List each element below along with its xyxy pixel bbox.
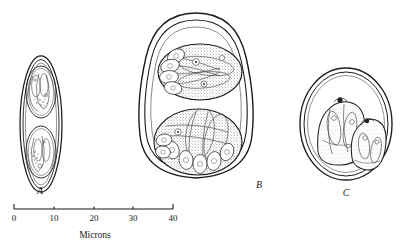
illustration-plate: A [0, 0, 416, 244]
scale-label-20: 20 [90, 213, 100, 223]
scale-label-40: 40 [169, 213, 179, 223]
figure-c-label: C [343, 187, 350, 198]
scale-label-10: 10 [50, 213, 60, 223]
figure-b-label: B [256, 179, 262, 190]
figure-b-sporocyst-upper [158, 44, 242, 100]
scale-axis-title: Microns [79, 230, 111, 240]
figure-a-label: A [36, 185, 44, 196]
scale-label-30: 30 [129, 213, 139, 223]
scale-label-0: 0 [12, 213, 17, 223]
